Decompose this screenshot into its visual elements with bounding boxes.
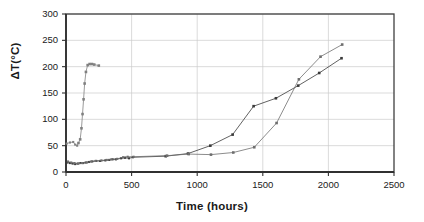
series-rapid-rise-series [66, 63, 100, 147]
gridlines [66, 14, 394, 172]
data-point [298, 78, 301, 81]
data-point [69, 141, 71, 143]
data-point [67, 160, 69, 162]
y-tick-label: 100 [30, 113, 58, 124]
data-point [319, 55, 322, 58]
data-point [70, 161, 72, 163]
data-series-layer [66, 43, 344, 165]
data-point [253, 146, 256, 149]
data-point [122, 156, 124, 158]
data-point [85, 71, 88, 74]
x-tick-label: 500 [110, 179, 154, 190]
data-point [106, 159, 108, 161]
data-point [275, 122, 278, 125]
x-tick-label: 1500 [241, 179, 285, 190]
data-point [77, 163, 79, 165]
data-point [127, 156, 129, 158]
data-point [81, 113, 84, 116]
y-axis-title: ΔT(°C) [9, 16, 21, 106]
data-point [90, 160, 92, 162]
axis-ticks [62, 14, 394, 176]
data-point [318, 72, 321, 75]
y-tick-label: 250 [30, 34, 58, 45]
series-slow-rise-series-lower [67, 43, 344, 164]
data-point [297, 84, 300, 87]
data-point [94, 160, 96, 162]
x-tick-label: 1000 [175, 179, 219, 190]
data-point [341, 43, 344, 46]
data-point [72, 141, 74, 143]
data-point [100, 159, 102, 161]
y-tick-label: 200 [30, 61, 58, 72]
data-point [79, 138, 82, 141]
y-tick-label: 300 [30, 8, 58, 19]
chart-figure: ΔT(°C) Time (hours) 050100150200250300 0… [0, 0, 424, 222]
data-point [232, 151, 235, 154]
x-tick-label: 0 [44, 179, 88, 190]
data-point [231, 133, 234, 136]
series-slow-rise-series-upper [66, 57, 343, 165]
x-tick-label: 2000 [306, 179, 350, 190]
data-point [81, 162, 83, 164]
data-point [187, 153, 190, 156]
data-point [91, 63, 94, 66]
data-point [80, 127, 83, 130]
data-point [86, 161, 88, 163]
data-point [166, 154, 169, 157]
data-point [76, 145, 78, 147]
y-tick-label: 0 [30, 166, 58, 177]
data-point [275, 97, 278, 100]
data-point [252, 105, 255, 108]
data-point [82, 98, 85, 101]
x-tick-label: 2500 [372, 179, 416, 190]
data-point [98, 64, 101, 67]
data-point [133, 156, 135, 158]
data-point [340, 57, 343, 60]
x-axis-title: Time (hours) [0, 200, 424, 212]
data-point [116, 158, 118, 160]
data-point [77, 142, 80, 145]
data-point [88, 63, 91, 66]
y-tick-label: 50 [30, 140, 58, 151]
y-tick-label: 150 [30, 87, 58, 98]
data-point [110, 158, 112, 160]
data-point [93, 63, 96, 66]
data-point [210, 153, 213, 156]
data-point [83, 82, 86, 85]
data-point [66, 143, 68, 145]
data-point [73, 162, 75, 164]
data-point [209, 144, 212, 147]
data-point [74, 144, 76, 146]
